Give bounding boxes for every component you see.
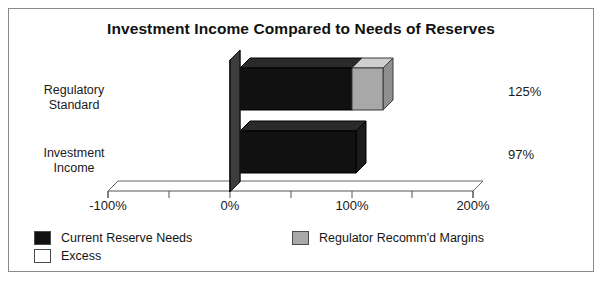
bar-segment-current-reserve-needs-top-face: [240, 58, 362, 68]
bar-regulatory-standard: [240, 58, 393, 110]
legend-swatch-excess: [34, 249, 51, 263]
zero-line-wall: [230, 50, 240, 192]
xtick-label-0: 0%: [195, 198, 265, 213]
legend-item-regulator-recommd-margins[interactable]: Regulator Recomm'd Margins: [292, 231, 484, 245]
axis-floor: [108, 181, 483, 198]
axis-ticks: [108, 191, 473, 198]
zero-wall-face: [230, 50, 240, 192]
legend-label-regulator-recommd-margins: Regulator Recomm'd Margins: [319, 231, 484, 245]
legend-item-excess[interactable]: Excess: [34, 249, 101, 263]
bar-segment-current-reserve-needs-side-face-2: [356, 121, 366, 173]
bar-investment-income: [240, 121, 366, 173]
bar-segment-current-reserve-needs-2: [240, 131, 356, 173]
bar-segment-current-reserve-needs: [240, 68, 352, 110]
legend-swatch-current-reserve-needs: [34, 231, 51, 245]
xtick-label-100: 100%: [317, 198, 387, 213]
legend-item-current-reserve-needs[interactable]: Current Reserve Needs: [34, 231, 192, 245]
legend-label-excess: Excess: [61, 249, 101, 263]
xtick-label--100: -100%: [73, 198, 143, 213]
bar-segment-current-reserve-needs-top-face-2: [240, 121, 366, 131]
bar-segment-regulator-margins-side-face: [383, 58, 393, 110]
legend-label-current-reserve-needs: Current Reserve Needs: [61, 231, 192, 245]
legend-swatch-regulator-recommd-margins: [292, 231, 309, 245]
bar-segment-regulator-margins: [352, 68, 383, 110]
chart-container: Investment Income Compared to Needs of R…: [0, 0, 603, 281]
xtick-label-200: 200%: [438, 198, 508, 213]
